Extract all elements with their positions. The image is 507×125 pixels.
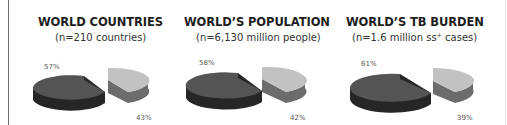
minor-percent-label: 39% [457, 114, 473, 122]
pie-slice-minor [433, 68, 474, 103]
major-percent-label: 61% [361, 60, 377, 68]
pie-chart-3 [0, 0, 507, 125]
pie-slice-major [350, 74, 431, 113]
